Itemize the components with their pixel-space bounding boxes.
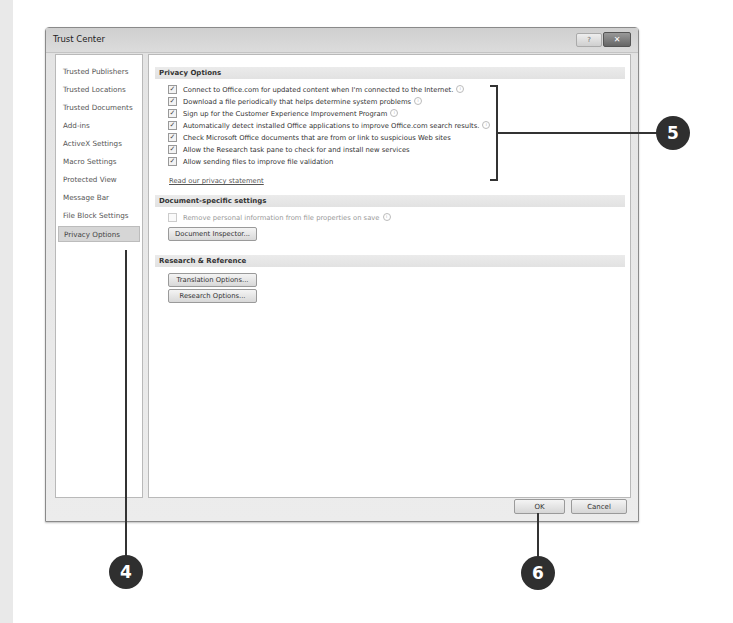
sidebar-item-add-ins[interactable]: Add-ins <box>58 118 140 134</box>
sidebar-item-message-bar[interactable]: Message Bar <box>58 190 140 206</box>
detect-installed-apps-option[interactable]: ✓Automatically detect installed Office a… <box>168 121 490 131</box>
sidebar-item-file-block-settings[interactable]: File Block Settings <box>58 208 140 224</box>
sidebar-item-trusted-publishers[interactable]: Trusted Publishers <box>58 64 140 80</box>
remove-personal-info-label: Remove personal information from file pr… <box>183 214 380 222</box>
dialog-title: Trust Center <box>53 34 105 44</box>
download-diagnostics-checkbox[interactable]: ✓ <box>168 97 177 106</box>
privacy-options-panel: Privacy Options ✓Connect to Office.com f… <box>148 54 631 498</box>
callout-bracket-bottom <box>490 179 498 181</box>
document-inspector-button[interactable]: Document Inspector... <box>168 227 257 241</box>
download-diagnostics-label: Download a file periodically that helps … <box>183 98 411 106</box>
connect-office-com-option[interactable]: ✓Connect to Office.com for updated conte… <box>168 85 464 95</box>
research-options-button[interactable]: Research Options... <box>168 289 257 303</box>
help-button[interactable]: ? <box>576 33 602 47</box>
detect-installed-apps-label: Automatically detect installed Office ap… <box>183 122 479 130</box>
detect-installed-apps-checkbox[interactable]: ✓ <box>168 121 177 130</box>
sidebar-item-macro-settings[interactable]: Macro Settings <box>58 154 140 170</box>
document-specific-header: Document-specific settings <box>155 195 625 207</box>
callout-4-badge: 4 <box>109 555 143 589</box>
research-pane-services-label: Allow the Research task pane to check fo… <box>183 146 410 154</box>
title-bar[interactable]: Trust Center ? ✕ <box>46 28 638 53</box>
download-diagnostics-option[interactable]: ✓Download a file periodically that helps… <box>168 97 422 107</box>
info-icon[interactable]: i <box>456 85 464 93</box>
check-suspicious-sites-option[interactable]: ✓Check Microsoft Office documents that a… <box>168 133 451 143</box>
check-suspicious-sites-label: Check Microsoft Office documents that ar… <box>183 134 451 142</box>
sidebar-item-trusted-locations[interactable]: Trusted Locations <box>58 82 140 98</box>
page-edge-strip <box>0 0 13 623</box>
callout-5-badge: 5 <box>656 116 690 150</box>
connect-office-com-label: Connect to Office.com for updated conten… <box>183 86 453 94</box>
research-pane-services-checkbox[interactable]: ✓ <box>168 145 177 154</box>
remove-personal-info-option[interactable]: Remove personal information from file pr… <box>168 213 391 223</box>
sidebar-item-protected-view[interactable]: Protected View <box>58 172 140 188</box>
callout-6-badge: 6 <box>521 556 555 590</box>
info-icon[interactable]: i <box>482 121 490 129</box>
file-validation-label: Allow sending files to improve file vali… <box>183 158 333 166</box>
category-sidebar: Trusted Publishers Trusted Locations Tru… <box>55 54 143 498</box>
ceip-label: Sign up for the Customer Experience Impr… <box>183 110 387 118</box>
cancel-button[interactable]: Cancel <box>571 499 627 514</box>
privacy-statement-link[interactable]: Read our privacy statement <box>169 177 264 185</box>
connect-office-com-checkbox[interactable]: ✓ <box>168 85 177 94</box>
research-reference-header: Research & Reference <box>155 255 625 267</box>
translation-options-button[interactable]: Translation Options... <box>168 273 257 287</box>
callout-4-leader-line <box>125 250 127 562</box>
research-pane-services-option[interactable]: ✓Allow the Research task pane to check f… <box>168 145 410 155</box>
ok-button[interactable]: OK <box>514 499 565 514</box>
ceip-checkbox[interactable]: ✓ <box>168 109 177 118</box>
callout-5-leader-line <box>497 132 657 134</box>
sidebar-item-activex-settings[interactable]: ActiveX Settings <box>58 136 140 152</box>
info-icon[interactable]: i <box>390 109 398 117</box>
file-validation-option[interactable]: ✓Allow sending files to improve file val… <box>168 157 333 167</box>
trust-center-dialog: Trust Center ? ✕ Trusted Publishers Trus… <box>45 27 639 522</box>
close-icon: ✕ <box>614 35 621 44</box>
sidebar-item-trusted-documents[interactable]: Trusted Documents <box>58 100 140 116</box>
ceip-option[interactable]: ✓Sign up for the Customer Experience Imp… <box>168 109 398 119</box>
info-icon[interactable]: i <box>414 97 422 105</box>
close-button[interactable]: ✕ <box>603 32 631 47</box>
sidebar-item-privacy-options[interactable]: Privacy Options <box>58 226 140 242</box>
help-icon: ? <box>587 36 591 44</box>
privacy-options-header: Privacy Options <box>155 67 625 79</box>
check-suspicious-sites-checkbox[interactable]: ✓ <box>168 133 177 142</box>
file-validation-checkbox[interactable]: ✓ <box>168 157 177 166</box>
info-icon[interactable]: i <box>383 213 391 221</box>
remove-personal-info-checkbox[interactable] <box>168 213 177 222</box>
